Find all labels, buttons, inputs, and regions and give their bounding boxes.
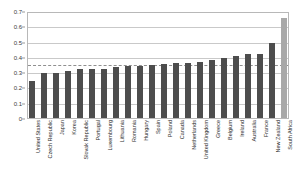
x-axis-label-slot: South Africa — [281, 120, 287, 190]
bar — [29, 81, 35, 119]
x-axis-label-slot: Romania — [125, 120, 131, 190]
x-axis-tick-label: Korea — [71, 120, 77, 135]
x-axis-label-slot: Korea — [65, 120, 71, 190]
y-axis-tick-label: 0.6 — [14, 24, 22, 30]
bar — [185, 63, 191, 119]
bars-container — [28, 13, 288, 118]
bar — [257, 54, 263, 119]
x-axis-tick-label: United States — [35, 120, 41, 153]
bar — [197, 62, 203, 118]
y-axis-tick-mark — [22, 119, 25, 120]
y-axis-tick-mark — [22, 73, 25, 74]
x-axis-label-slot: Canada — [173, 120, 179, 190]
x-axis-tick-label: France — [263, 120, 269, 137]
x-axis-label-slot: Japan — [53, 120, 59, 190]
bar — [113, 67, 119, 118]
x-axis-label-slot: New Zealand — [269, 120, 275, 190]
bar-chart: 00.10.20.30.40.50.60.7 United StatesCzec… — [0, 0, 295, 190]
bar — [77, 69, 83, 118]
bar — [173, 63, 179, 118]
bar — [221, 58, 227, 118]
x-axis-tick-label: Lithuania — [119, 120, 125, 142]
x-axis-tick-label: Canada — [179, 120, 185, 139]
y-axis: 00.10.20.30.40.50.60.7 — [0, 12, 25, 119]
x-axis-tick-label: Romania — [131, 120, 137, 142]
y-axis-tick-label: 0.4 — [14, 55, 22, 61]
x-axis-tick-label: Spain — [155, 120, 161, 134]
y-axis-tick-label: 0.7 — [14, 9, 22, 15]
bar — [101, 69, 107, 119]
bar — [209, 60, 215, 118]
x-axis-tick-label: South Africa — [287, 120, 293, 150]
x-axis-tick-label: Portugal — [95, 120, 101, 141]
x-axis-label-slot: Spain — [149, 120, 155, 190]
y-axis-tick-mark — [22, 12, 25, 13]
y-axis-tick-mark — [22, 27, 25, 28]
x-axis-tick-label: Hungary — [143, 120, 149, 141]
x-axis-tick-label: Australia — [251, 120, 257, 141]
y-axis-tick-label: 0.2 — [14, 85, 22, 91]
x-axis-label-slot: Australia — [245, 120, 251, 190]
x-axis-tick-label: Poland — [167, 120, 173, 137]
bar — [41, 73, 47, 118]
bar — [65, 71, 71, 118]
x-axis-label-slot: Czech Republic — [41, 120, 47, 190]
y-axis-tick-mark — [22, 103, 25, 104]
x-axis-label-slot: Netherlands — [185, 120, 191, 190]
y-axis-tick-label: 0.5 — [14, 40, 22, 46]
bar — [245, 54, 251, 118]
x-axis-label-slot: Hungary — [137, 120, 143, 190]
x-axis-label-slot: Lithuania — [113, 120, 119, 190]
x-axis-tick-label: Netherlands — [191, 120, 197, 150]
x-axis-label-slot: Slovak Republic — [77, 120, 83, 190]
bar — [269, 43, 275, 118]
bar — [281, 18, 287, 119]
x-axis-label-slot: Greece — [209, 120, 215, 190]
bar — [89, 69, 95, 119]
x-axis-tick-label: Czech Republic — [47, 120, 53, 159]
bar — [233, 56, 239, 118]
x-axis-tick-label: Luxembourg — [107, 120, 113, 151]
y-axis-tick-mark — [22, 42, 25, 43]
y-axis-tick-mark — [22, 57, 25, 58]
x-axis-label-slot: Belgium — [221, 120, 227, 190]
x-axis-tick-label: Ireland — [239, 120, 245, 137]
x-axis-tick-label: Greece — [215, 120, 221, 138]
bar — [137, 66, 143, 119]
bar — [149, 65, 155, 118]
bar — [53, 73, 59, 118]
x-axis-tick-label: Belgium — [227, 120, 233, 140]
y-axis-tick-label: 0.1 — [14, 101, 22, 107]
x-axis-tick-label: Slovak Republic — [83, 120, 89, 159]
y-axis-tick-label: 0.3 — [14, 70, 22, 76]
x-axis-labels: United StatesCzech RepublicJapanKoreaSlo… — [28, 120, 288, 190]
y-axis-tick-mark — [22, 88, 25, 89]
x-axis-label-slot: Portugal — [89, 120, 95, 190]
x-axis-label-slot: Poland — [161, 120, 167, 190]
x-axis-tick-label: New Zealand — [275, 120, 281, 152]
x-axis-label-slot: France — [257, 120, 263, 190]
bar — [161, 64, 167, 118]
x-axis-label-slot: Luxembourg — [101, 120, 107, 190]
x-axis-label-slot: Ireland — [233, 120, 239, 190]
x-axis-label-slot: United States — [29, 120, 35, 190]
x-axis-tick-label: Japan — [59, 120, 65, 135]
x-axis-tick-label: United Kingdom — [203, 120, 209, 159]
bar — [125, 66, 131, 118]
x-axis-label-slot: United Kingdom — [197, 120, 203, 190]
